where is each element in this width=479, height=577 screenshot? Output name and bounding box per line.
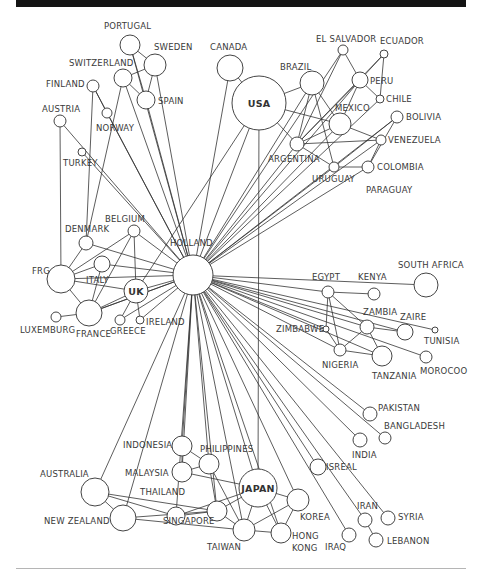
node-label-el-salvador: EL SALVADOR — [316, 34, 376, 44]
node-turkey — [78, 148, 86, 156]
edge-holland-syria — [193, 275, 388, 518]
node-label-austria: AUSTRIA — [42, 104, 80, 114]
node-portugal — [120, 35, 140, 55]
node-pakistan — [363, 407, 377, 421]
node-luxemburg — [51, 312, 61, 322]
node-label-malaysia: MALAYSIA — [125, 468, 169, 478]
edge-holland-south-africa — [193, 275, 426, 285]
node-label-hong-kong: HONG — [292, 531, 319, 541]
node-label-italy: ITALY — [86, 275, 109, 285]
node-label-greece: GREECE — [110, 326, 146, 336]
node-label-peru: PERU — [370, 76, 393, 86]
node-label-norway: NORWAY — [96, 123, 135, 133]
node-holland — [173, 255, 213, 295]
node-tunisia — [432, 327, 438, 333]
node-australia — [81, 478, 109, 506]
node-label-usa: USA — [248, 98, 271, 109]
node-label-singapore: SINGAPORE — [163, 516, 215, 526]
node-mexico — [329, 113, 351, 135]
node-bolivia — [391, 111, 403, 123]
node-label-new-zealand: NEW ZEALAND — [44, 516, 110, 526]
node-label-chile: CHILE — [386, 94, 412, 104]
node-label-philippines: PHILIPPINES — [200, 444, 253, 454]
node-zaire — [397, 324, 413, 340]
node-italy — [94, 256, 110, 272]
node-label-ecuador: ECUADOR — [380, 36, 424, 46]
node-label-india: INDIA — [352, 450, 377, 460]
node-austria — [54, 115, 66, 127]
node-label-thailand: THAILAND — [139, 487, 185, 497]
node-uruguay — [329, 162, 339, 172]
edge-holland-bangladesh — [193, 275, 385, 438]
node-label-denmark: DENMARK — [65, 224, 110, 234]
node-label-mexico: MEXICO — [335, 103, 370, 113]
edge-belgium-france — [89, 231, 134, 313]
node-philippines — [199, 454, 219, 474]
node-egypt — [322, 286, 334, 298]
node-label-pakistan: PAKISTAN — [378, 403, 420, 413]
node-label-finland: FINLAND — [46, 79, 85, 89]
node-peru — [352, 72, 368, 88]
node-malaysia — [172, 462, 192, 482]
node-label-bolivia: BOLIVIA — [406, 112, 441, 122]
node-zambia — [360, 320, 374, 334]
node-norway — [102, 108, 112, 118]
node-label-ireland: IRELAND — [146, 317, 185, 327]
node-frg — [47, 265, 75, 293]
node-el-salvador — [338, 45, 348, 55]
node-label-lebanon: LEBANON — [387, 536, 430, 546]
node-france — [76, 300, 102, 326]
edge-austria-frg — [60, 121, 61, 279]
node-new-zealand — [110, 505, 136, 531]
node-label-syria: SYRIA — [398, 512, 424, 522]
bottom-divider — [16, 568, 466, 569]
node-label-zambia: ZAMBIA — [363, 307, 397, 317]
edge-holland-mexico — [193, 124, 340, 275]
edge-argentina-venezuela — [297, 140, 381, 144]
node-spain — [137, 91, 155, 109]
node-denmark — [79, 236, 93, 250]
node-syria — [381, 511, 395, 525]
node-greece — [115, 315, 125, 325]
node-label-australia: AUSTRALIA — [40, 469, 89, 479]
node-label-iraq: IRAQ — [325, 542, 346, 552]
node-bangladesh — [379, 432, 391, 444]
node-label-korea: KOREA — [300, 512, 330, 522]
node-tanzania — [372, 346, 392, 366]
node-label-nigeria: NIGERIA — [322, 360, 358, 370]
node-label-france: FRANCE — [76, 329, 111, 339]
node-label-venezuela: VENEZUELA — [388, 135, 441, 145]
node-ireland — [136, 316, 144, 324]
node-label-taiwan: TAIWAN — [206, 542, 241, 552]
node-label-turkey: TURKEY — [62, 158, 98, 168]
node-label-uk: UK — [128, 286, 144, 297]
node-label-hong-kong-line2: KONG — [292, 543, 318, 553]
node-label-frg: FRG — [32, 266, 50, 276]
node-switzerland — [114, 69, 132, 87]
node-nigeria — [334, 344, 346, 356]
node-label-sweden: SWEDEN — [154, 42, 193, 52]
node-label-morocoo: MOROCOO — [420, 366, 467, 376]
node-chile — [376, 95, 384, 103]
node-iran — [358, 513, 372, 527]
node-label-spain: SPAIN — [158, 96, 184, 106]
node-hong-kong — [271, 523, 291, 543]
node-ecuador — [380, 50, 388, 58]
node-label-brazil: BRAZIL — [280, 62, 312, 72]
node-label-switzerland: SWITZERLAND — [69, 58, 134, 68]
node-label-belgium: BELGIUM — [105, 214, 145, 224]
node-taiwan — [233, 519, 255, 541]
node-belgium — [128, 225, 140, 237]
node-label-tunisia: TUNISIA — [423, 336, 459, 346]
node-argentina — [290, 137, 304, 151]
node-label-canada: CANADA — [210, 42, 247, 52]
node-lebanon — [369, 533, 383, 547]
node-brazil — [300, 71, 324, 95]
node-label-portugal: PORTUGAL — [104, 21, 151, 31]
node-label-kenya: KENYA — [358, 272, 387, 282]
node-isreal — [310, 459, 326, 475]
node-label-argentina: ARGENTINA — [268, 154, 320, 164]
edge-holland-tunisia — [193, 275, 435, 330]
node-india — [353, 433, 367, 447]
node-venezuela — [376, 135, 386, 145]
